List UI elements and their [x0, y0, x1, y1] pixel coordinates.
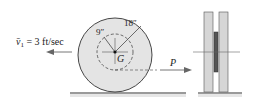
force-arrow-head	[184, 67, 192, 73]
wheel-diagram: G 9″ 18″ P v̄1 = 3 ft/sec	[0, 0, 256, 106]
velocity-arrow-head	[46, 49, 54, 55]
force-label: P	[169, 57, 176, 68]
side-view	[193, 12, 242, 97]
inner-radius-label: 9″	[96, 27, 105, 37]
ground-left	[70, 92, 186, 94]
center-label: G	[117, 53, 124, 64]
outer-radius-label: 18″	[124, 18, 137, 28]
velocity-label: v̄1 = 3 ft/sec	[16, 36, 64, 49]
